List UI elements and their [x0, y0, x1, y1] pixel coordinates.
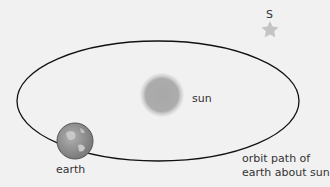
sun-label: sun — [192, 92, 212, 106]
sun-icon — [140, 73, 184, 117]
orbit-label-line2: earth about sun — [242, 166, 330, 180]
orbit-label-line1: orbit path of — [242, 152, 310, 166]
earth-label: earth — [56, 163, 85, 177]
star-icon — [262, 21, 279, 37]
star-label: S — [266, 8, 273, 22]
earth-icon — [57, 123, 93, 159]
